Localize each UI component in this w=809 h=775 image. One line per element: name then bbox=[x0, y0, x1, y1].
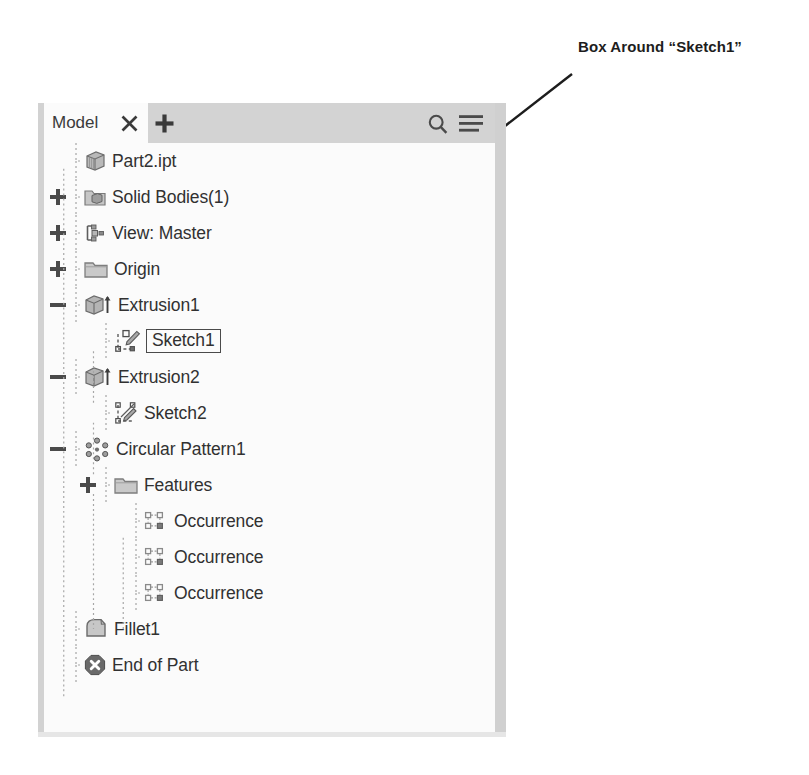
tree-connector bbox=[99, 395, 113, 431]
tree-node-label: End of Part bbox=[112, 655, 198, 676]
highlighted-node-label: Sketch1 bbox=[146, 329, 221, 354]
tree-node-solid-bodies-1[interactable]: Solid Bodies(1) bbox=[44, 179, 495, 215]
tree-connector bbox=[69, 431, 83, 467]
tree-connector bbox=[69, 143, 83, 179]
tree-connector bbox=[69, 179, 83, 215]
tree-node-label: Occurrence bbox=[174, 547, 263, 568]
sketch-icon bbox=[113, 400, 144, 426]
occurrence-icon bbox=[143, 582, 174, 604]
sketch-pencil-icon bbox=[113, 328, 146, 354]
tree-node-part2-ipt[interactable]: Part2.ipt bbox=[44, 143, 495, 179]
end-of-part-icon bbox=[83, 653, 112, 677]
tree-connector bbox=[69, 359, 83, 395]
tree-node-fillet1[interactable]: Fillet1 bbox=[44, 611, 495, 647]
tree-connector bbox=[129, 539, 143, 575]
tree-node-label: Extrusion2 bbox=[118, 367, 200, 388]
annotation-callout-text: Box Around “Sketch1” bbox=[578, 38, 742, 55]
hamburger-menu-icon[interactable] bbox=[458, 113, 484, 135]
tree-connector bbox=[99, 467, 113, 503]
tree-connector bbox=[69, 647, 83, 683]
search-icon[interactable] bbox=[427, 113, 449, 135]
tree-connector bbox=[69, 611, 83, 647]
fillet-icon bbox=[83, 617, 114, 641]
tree-node-label: Features bbox=[144, 475, 212, 496]
tree-connector bbox=[129, 503, 143, 539]
expander-plus-icon[interactable] bbox=[50, 261, 66, 277]
tree-node-label: Part2.ipt bbox=[112, 151, 176, 172]
tree-node-label: View: Master bbox=[112, 223, 212, 244]
tree-node-sketch2[interactable]: Sketch2 bbox=[44, 395, 495, 431]
folder-icon bbox=[83, 258, 114, 280]
folder-icon bbox=[113, 474, 144, 496]
expander-minus-icon[interactable] bbox=[50, 297, 66, 313]
expander-plus-icon[interactable] bbox=[50, 225, 66, 241]
expander-plus-icon[interactable] bbox=[80, 477, 96, 493]
tree-connector bbox=[129, 575, 143, 611]
extrusion-icon bbox=[83, 293, 118, 317]
tab-model-label: Model bbox=[44, 113, 98, 133]
tree-node-sketch1[interactable]: Sketch1 bbox=[44, 323, 495, 359]
tree-node-label: Circular Pattern1 bbox=[116, 439, 246, 460]
model-tree[interactable]: Part2.iptSolid Bodies(1)View: MasterOrig… bbox=[44, 143, 495, 732]
tree-node-end-of-part[interactable]: End of Part bbox=[44, 647, 495, 683]
folder-solid-bodies-icon bbox=[83, 186, 112, 208]
tree-node-label: Solid Bodies(1) bbox=[112, 187, 229, 208]
tree-node-label: Occurrence bbox=[174, 511, 263, 532]
model-browser-panel: Model Part2.iptSolid Bodies(1)View: Mast… bbox=[38, 103, 506, 737]
tree-connector bbox=[69, 215, 83, 251]
tree-connector bbox=[69, 251, 83, 287]
tree-node-features[interactable]: Features bbox=[44, 467, 495, 503]
tree-node-circular-pattern1[interactable]: Circular Pattern1 bbox=[44, 431, 495, 467]
circular-pattern-icon bbox=[83, 436, 116, 462]
browser-tab-strip: Model bbox=[44, 103, 495, 143]
tree-node-label: Origin bbox=[114, 259, 160, 280]
tree-connector bbox=[99, 323, 113, 359]
view-master-icon bbox=[83, 222, 112, 244]
tree-node-view-master[interactable]: View: Master bbox=[44, 215, 495, 251]
tree-connector bbox=[69, 287, 83, 323]
plus-icon[interactable] bbox=[154, 113, 175, 134]
occurrence-icon bbox=[143, 510, 174, 532]
tree-node-extrusion1[interactable]: Extrusion1 bbox=[44, 287, 495, 323]
occurrence-icon bbox=[143, 546, 174, 568]
close-icon[interactable] bbox=[120, 114, 139, 133]
panel-bottom-border bbox=[38, 732, 506, 737]
expander-minus-icon[interactable] bbox=[50, 369, 66, 385]
tree-node-origin[interactable]: Origin bbox=[44, 251, 495, 287]
tree-node-label: Extrusion1 bbox=[118, 295, 200, 316]
tree-node-occurrence[interactable]: Occurrence bbox=[44, 539, 495, 575]
expander-minus-icon[interactable] bbox=[50, 441, 66, 457]
tree-node-label: Sketch2 bbox=[144, 403, 207, 424]
part-cube-icon bbox=[83, 149, 112, 173]
tree-node-label: Fillet1 bbox=[114, 619, 160, 640]
tree-node-occurrence[interactable]: Occurrence bbox=[44, 575, 495, 611]
tree-node-label: Occurrence bbox=[174, 583, 263, 604]
panel-scrollbar[interactable] bbox=[495, 103, 506, 737]
extrusion-icon bbox=[83, 365, 118, 389]
tree-node-occurrence[interactable]: Occurrence bbox=[44, 503, 495, 539]
expander-plus-icon[interactable] bbox=[50, 189, 66, 205]
tree-node-extrusion2[interactable]: Extrusion2 bbox=[44, 359, 495, 395]
